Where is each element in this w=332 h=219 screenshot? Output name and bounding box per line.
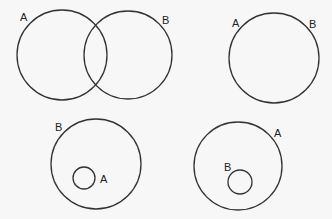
label-set-a: A (100, 173, 108, 185)
circle-set-b-outer (51, 119, 141, 209)
circle-set-b-inner (228, 170, 252, 194)
venn-diagram-svg: A B A B B A A B (0, 0, 332, 219)
label-set-b: B (224, 161, 231, 173)
label-set-b: B (309, 18, 316, 30)
circle-set-b (84, 11, 172, 99)
circle-set-a-inner (73, 167, 95, 189)
label-set-a: A (20, 11, 28, 23)
venn-diagram-canvas: A B A B B A A B (0, 0, 332, 219)
panel-overlapping-sets: A B (17, 10, 172, 100)
panel-b-subset-of-a: A B (194, 122, 282, 210)
label-set-a: A (232, 17, 240, 29)
circle-set-a-equals-b (229, 13, 319, 103)
panel-a-subset-of-b: B A (51, 119, 141, 209)
circle-set-a (17, 10, 107, 100)
label-set-b: B (162, 14, 169, 26)
label-set-a: A (274, 127, 282, 139)
label-set-b: B (55, 121, 62, 133)
panel-equal-sets: A B (229, 13, 319, 103)
circle-set-a-outer (194, 122, 282, 210)
